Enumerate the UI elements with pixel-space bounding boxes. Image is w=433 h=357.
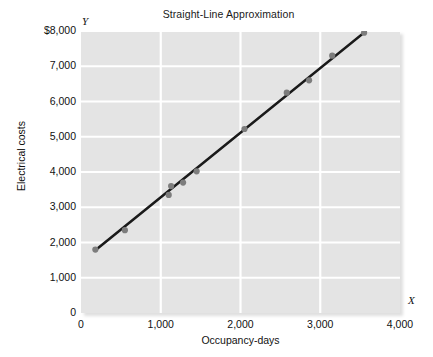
x-tick-label: 0 [78, 318, 84, 330]
y-axis-title: Electrical costs [15, 86, 27, 226]
x-tick-label: 3,000 [307, 318, 333, 330]
x-tick-label: 4,000 [387, 318, 413, 330]
chart-figure: Straight-Line Approximation Y X 01,0002,… [0, 0, 433, 357]
x-tick-label: 2,000 [227, 318, 253, 330]
x-axis-title: Occupancy-days [81, 334, 400, 346]
x-axis-tick-labels: 01,0002,0003,0004,000 [0, 0, 433, 357]
x-tick-label: 1,000 [148, 318, 174, 330]
